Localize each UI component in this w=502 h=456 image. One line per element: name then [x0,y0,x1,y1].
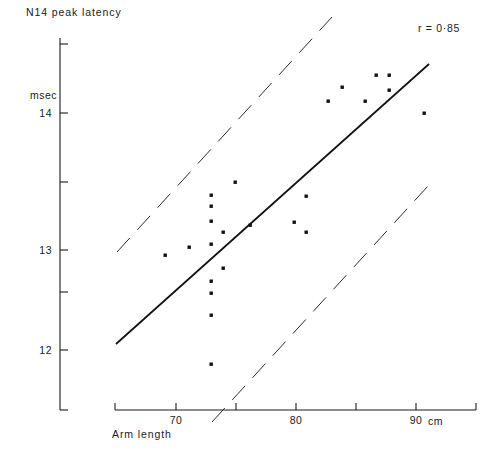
y-tick-label-14: 14 [30,107,52,119]
data-point [375,74,378,77]
correlation-annotation: r = 0·85 [418,22,460,34]
data-point [222,231,225,234]
data-point [210,292,213,295]
regression-line [116,64,429,344]
data-point [293,221,296,224]
data-point [305,195,308,198]
data-point [423,112,426,115]
lower-confidence-band [212,186,428,422]
data-point [234,181,237,184]
x-axis-title: Arm length [112,428,172,440]
y-tick-label-13: 13 [30,244,52,256]
data-point [388,74,391,77]
data-point [364,100,367,103]
data-point [164,254,167,257]
data-point [210,194,213,197]
x-axis-group [115,403,476,410]
x-axis-units-label: cm [428,415,443,427]
x-tick-label-70: 70 [162,414,190,426]
data-point [210,220,213,223]
upper-confidence-band [117,17,332,252]
data-point [222,267,225,270]
data-point [188,246,191,249]
data-point [210,243,213,246]
y-axis-title: N14 peak latency [26,6,122,18]
scatter-points-group [164,74,426,366]
data-point [341,86,344,89]
y-axis-units-label: msec [30,89,57,101]
scatter-plot-figure: N14 peak latency msec 14 13 12 70 80 90 … [0,0,502,456]
data-point [327,100,330,103]
data-point [210,363,213,366]
plot-canvas [0,0,502,456]
x-tick-label-80: 80 [282,414,310,426]
data-point [210,314,213,317]
data-point [210,280,213,283]
data-point [388,89,391,92]
y-tick-label-12: 12 [30,344,52,356]
data-point [210,205,213,208]
x-tick-label-90: 90 [402,414,430,426]
y-axis-group [60,38,68,410]
data-point [249,224,252,227]
data-point [305,231,308,234]
